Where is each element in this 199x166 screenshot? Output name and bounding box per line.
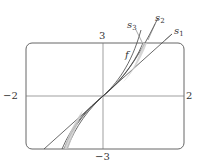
y-max-label: 3 xyxy=(99,31,105,41)
y-min-label: −3 xyxy=(95,152,110,162)
s3-leader xyxy=(136,30,142,42)
shaded-gap-bottom xyxy=(64,110,83,149)
s2-leader xyxy=(148,24,155,40)
s1-label-sub: 1 xyxy=(179,30,183,38)
x-max-label: 2 xyxy=(186,91,192,101)
s2-label-sub: 2 xyxy=(160,17,164,25)
f-label: f xyxy=(125,50,129,60)
x-min-label: −2 xyxy=(3,91,18,101)
s1-label: s1 xyxy=(174,26,184,38)
curve-s3 xyxy=(67,30,141,149)
s3-label-sub: 3 xyxy=(132,24,136,32)
s2-label: s2 xyxy=(155,13,165,25)
s3-label: s3 xyxy=(127,20,137,32)
graph-canvas xyxy=(0,0,199,166)
s1-leader xyxy=(165,34,172,40)
